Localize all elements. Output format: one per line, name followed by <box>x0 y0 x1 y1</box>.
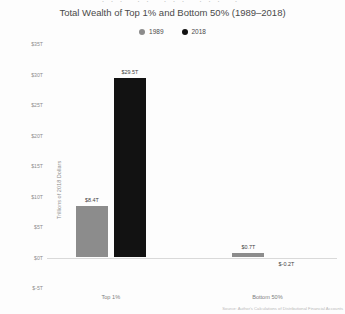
legend-item-2018[interactable]: 2018 <box>182 28 206 35</box>
x-axis-tick-label: Top 1% <box>101 294 120 300</box>
x-axis-tick-label: Bottom 50% <box>252 294 282 300</box>
legend-label: 2018 <box>192 28 206 35</box>
chart-figure: ··· ·· ··· ··· · Total Wealth of Top 1% … <box>0 0 345 314</box>
y-axis-tick-label: $25T <box>31 102 43 108</box>
bar-value-label: $0.7T <box>241 244 255 250</box>
bar-2018-top-1-[interactable] <box>114 78 146 258</box>
legend-label: 1989 <box>149 28 163 35</box>
y-axis-tick-label: $0T <box>34 255 43 261</box>
zero-axis-line <box>47 258 337 259</box>
y-axis-tick-label: $5T <box>34 224 43 230</box>
y-axis-tick-label: $20T <box>31 133 43 139</box>
legend-dot-icon <box>139 29 145 35</box>
y-axis-tick-label: $15T <box>31 163 43 169</box>
y-axis-tick-label: $-5T <box>32 285 43 291</box>
chart-title: Total Wealth of Top 1% and Bottom 50% (1… <box>0 7 345 18</box>
plot-area: Trillions of 2018 Dollars $35T$30T$25T$2… <box>47 44 337 288</box>
legend-item-1989[interactable]: 1989 <box>139 28 163 35</box>
clipped-header-text: ··· ·· ··· ··· · <box>0 0 345 4</box>
legend-dot-icon <box>182 29 188 35</box>
chart-legend: 1989 2018 <box>0 28 345 35</box>
y-axis-tick-label: $35T <box>31 41 43 47</box>
y-axis-tick-label: $10T <box>31 194 43 200</box>
bar-value-label: $-0.2T <box>279 261 295 267</box>
bar-value-label: $8.4T <box>85 197 99 203</box>
y-axis-tick-label: $30T <box>31 72 43 78</box>
bar-value-label: $29.5T <box>121 69 138 75</box>
bar-1989-top-1-[interactable] <box>76 206 108 257</box>
source-note: Source: Author's Calculations of Distrib… <box>222 306 343 311</box>
y-axis-title: Trillions of 2018 Dollars <box>56 161 62 219</box>
